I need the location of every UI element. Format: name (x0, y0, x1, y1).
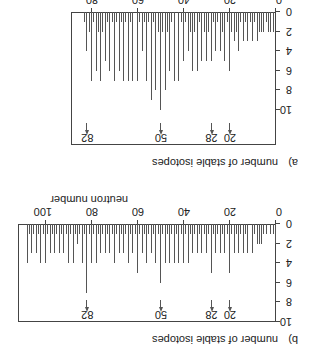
isotope-bar (162, 12, 163, 32)
isotope-bar (52, 224, 53, 234)
isotope-bar (266, 12, 267, 22)
x-tick-label: 40 (178, 206, 190, 218)
isotope-bar (245, 224, 246, 234)
magic-number-arrow (160, 300, 161, 308)
isotope-bar (204, 12, 205, 32)
y-tick (276, 262, 280, 263)
isotope-bar (105, 224, 106, 253)
isotope-bar (174, 224, 175, 263)
y-axis-label: number of stable isotopes (152, 157, 278, 169)
isotope-bar (103, 224, 104, 234)
isotope-bar (241, 224, 242, 234)
isotope-bar (96, 224, 97, 263)
y-tick-label: 4 (286, 45, 292, 57)
y-tick (276, 223, 280, 224)
isotope-bar (201, 12, 202, 61)
x-axis-label: neutron number (50, 194, 128, 206)
isotope-bar (149, 224, 150, 234)
x-tick (91, 8, 92, 12)
y-tick-label: 0 (286, 6, 292, 18)
isotope-bar (36, 224, 37, 253)
isotope-bar (40, 224, 41, 263)
x-tick (275, 220, 276, 224)
isotope-bar (222, 12, 223, 32)
magic-number-label: 50 (155, 309, 167, 321)
y-tick-label: 8 (286, 296, 292, 308)
isotope-bar (63, 224, 64, 253)
isotope-bar (227, 224, 228, 234)
isotope-bar (273, 12, 274, 32)
y-tick-label: 6 (286, 277, 292, 289)
isotope-bar (208, 224, 209, 234)
isotope-bar (43, 224, 44, 234)
isotope-bar (142, 224, 143, 253)
isotope-bar (45, 224, 46, 263)
isotope-bar (114, 12, 115, 81)
isotope-bar (224, 224, 225, 253)
isotope-bar (178, 224, 179, 263)
isotope-bar (167, 12, 168, 32)
isotope-bar (107, 224, 108, 234)
x-tick-label: 100 (34, 206, 52, 218)
magic-number-arrow (229, 300, 230, 308)
isotope-bar (100, 224, 101, 253)
isotope-bar (132, 224, 133, 253)
isotope-bar (130, 12, 131, 22)
isotope-bar (195, 12, 196, 32)
y-tick-label: 10 (280, 104, 292, 116)
isotope-bar (234, 12, 235, 41)
isotope-bar (54, 224, 55, 253)
isotope-bar (153, 224, 154, 234)
isotope-bar (50, 224, 51, 253)
isotope-bar (100, 12, 101, 81)
y-tick (276, 50, 280, 51)
magic-number-label: 28 (205, 309, 217, 321)
isotope-bar (109, 224, 110, 253)
isotope-bar (47, 224, 48, 234)
isotope-bar (172, 224, 173, 234)
isotope-bar (75, 224, 76, 234)
isotope-bar (261, 12, 262, 32)
isotope-bar (160, 12, 161, 110)
isotope-bar (201, 224, 202, 253)
isotope-bar (181, 224, 182, 234)
y-tick-label: 0 (286, 218, 292, 230)
isotope-bar (61, 224, 62, 234)
isotope-bar (80, 224, 81, 234)
isotope-bar (192, 12, 193, 71)
isotope-bar (130, 224, 131, 234)
isotope-bar (247, 12, 248, 41)
magic-number-arrow (86, 123, 87, 131)
isotope-bar (149, 12, 150, 22)
figure: b)number of stable isotopes0246810020406… (0, 0, 312, 354)
y-tick-label: 2 (286, 238, 292, 250)
isotope-bar (151, 224, 152, 253)
x-tick-label: 20 (224, 0, 236, 6)
isotope-bar (142, 12, 143, 51)
isotope-bar (38, 224, 39, 234)
isotope-bar (68, 224, 69, 263)
x-tick (183, 8, 184, 12)
isotope-bar (188, 12, 189, 51)
isotope-bar (247, 224, 248, 253)
isotope-bar (34, 224, 35, 234)
isotope-bar (220, 224, 221, 253)
isotope-bar (144, 12, 145, 22)
x-tick-label: 20 (224, 206, 236, 218)
isotope-bar (250, 12, 251, 22)
isotope-bar (132, 12, 133, 81)
isotope-bar (66, 224, 67, 234)
magic-number-label: 82 (81, 309, 93, 321)
isotope-bar (139, 224, 140, 234)
isotope-bar (229, 12, 230, 71)
isotope-bar (218, 224, 219, 234)
magic-number-arrow (211, 300, 212, 308)
isotope-bar (188, 224, 189, 263)
isotope-bar (165, 224, 166, 263)
isotope-bar (204, 224, 205, 234)
isotope-bar (192, 224, 193, 253)
isotope-bar (197, 224, 198, 253)
y-tick (276, 31, 280, 32)
isotope-bar (89, 224, 90, 234)
isotope-bar (172, 12, 173, 22)
